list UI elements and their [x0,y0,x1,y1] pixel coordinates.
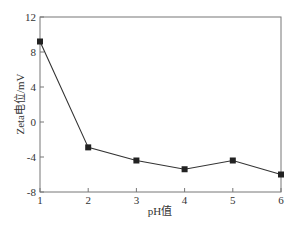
x-axis-label: pH值 [148,205,172,217]
square-marker [182,166,188,172]
x-axis-ticks: 123456 [37,188,284,206]
x-tick-label: 5 [230,194,236,206]
zeta-potential-chart: -8-404812 123456 pH值 Zeta电位/mV [0,0,297,229]
y-tick-label: 8 [31,46,37,58]
square-marker [85,144,91,150]
square-marker [37,39,43,45]
plot-frame [40,17,281,192]
y-tick-label: -8 [27,186,37,198]
y-tick-label: 12 [25,11,36,23]
y-tick-label: -4 [27,151,37,163]
square-marker [133,158,139,164]
x-tick-label: 6 [278,194,284,206]
square-marker [278,172,284,178]
x-tick-label: 3 [134,194,140,206]
x-tick-label: 4 [182,194,188,206]
x-tick-label: 1 [37,194,43,206]
data-markers [37,39,284,178]
y-tick-label: 0 [31,116,37,128]
square-marker [230,158,236,164]
y-axis-label: Zeta电位/mV [13,73,26,134]
data-line [40,42,281,175]
x-tick-label: 2 [85,194,91,206]
y-tick-label: 4 [31,81,37,93]
